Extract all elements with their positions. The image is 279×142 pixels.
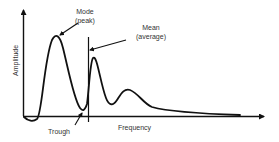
mean-label-line2: (average)	[136, 33, 166, 41]
mode-label-line2: (peak)	[75, 17, 95, 25]
x-axis-label: Frequency	[118, 124, 152, 132]
frequency-distribution-diagram: Amplitude Frequency Mode (peak) Mean (av…	[0, 0, 279, 142]
diagram-canvas: Amplitude Frequency Mode (peak) Mean (av…	[0, 0, 279, 142]
distribution-curve	[24, 36, 240, 121]
mode-pointer-arrow	[60, 23, 78, 35]
y-axis-label: Amplitude	[12, 45, 20, 76]
mean-pointer-arrow	[90, 40, 126, 50]
trough-label: Trough	[48, 128, 70, 136]
mean-label-line1: Mean	[142, 24, 160, 31]
trough-pointer-arrow	[75, 113, 82, 125]
mode-label-line1: Mode	[76, 8, 94, 15]
